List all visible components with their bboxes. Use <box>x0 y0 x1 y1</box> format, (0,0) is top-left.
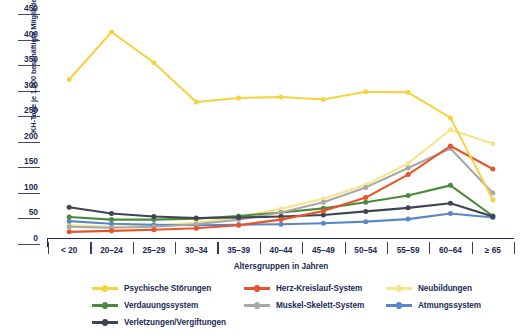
y-axis-tick-rule <box>18 116 40 117</box>
y-axis-tick-label: 300 <box>4 80 38 90</box>
legend-item-label: Herz-Kreislauf-System <box>276 284 362 293</box>
data-point <box>448 183 453 188</box>
y-axis-tick-label: 250 <box>4 105 38 115</box>
y-axis-tick-label: 0 <box>4 233 38 243</box>
y-axis-ticks: 050100150200250300350400450 <box>0 0 48 336</box>
data-point <box>448 144 453 149</box>
legend-item[interactable]: Muskel-Skelett-System <box>244 301 364 310</box>
data-point <box>236 215 241 220</box>
legend-item-label: Psychische Störungen <box>124 284 211 293</box>
data-point <box>67 215 72 220</box>
data-point <box>321 221 326 226</box>
data-point <box>321 200 326 205</box>
data-point <box>67 77 72 82</box>
data-point <box>67 229 72 234</box>
legend-swatch-icon <box>92 284 118 293</box>
data-point <box>406 165 411 170</box>
data-point <box>194 226 199 231</box>
data-point <box>363 209 368 214</box>
y-axis-tick-label: 150 <box>4 156 38 166</box>
chart-legend: Psychische StörungenHerz-Kreislauf-Syste… <box>92 284 512 334</box>
data-point <box>236 95 241 100</box>
legend-swatch-icon <box>386 284 412 293</box>
data-point <box>448 211 453 216</box>
y-axis-tick-label: 350 <box>4 54 38 64</box>
legend-item[interactable]: Herz-Kreislauf-System <box>244 284 362 293</box>
legend-swatch-icon <box>244 284 270 293</box>
data-point <box>151 60 156 65</box>
data-point <box>406 161 411 166</box>
plot-area <box>48 8 514 238</box>
y-axis-tick-rule <box>18 65 40 66</box>
x-axis-tick-label: ≥ 65 <box>465 246 520 255</box>
y-axis-tick-label: 400 <box>4 29 38 39</box>
y-axis-tick-label: 200 <box>4 131 38 141</box>
legend-item[interactable]: Verletzungen/Vergiftungen <box>92 318 226 327</box>
data-point <box>406 217 411 222</box>
y-axis-tick-rule <box>18 193 40 194</box>
data-point <box>363 195 368 200</box>
data-point <box>490 214 495 219</box>
data-point <box>279 94 284 99</box>
data-point <box>67 224 72 229</box>
y-axis-tick-rule <box>18 167 40 168</box>
y-axis-tick-rule <box>18 142 40 143</box>
legend-item[interactable]: Atmungssystem <box>386 301 481 310</box>
data-point <box>194 100 199 105</box>
legend-item-label: Atmungssystem <box>418 301 481 310</box>
data-point <box>151 227 156 232</box>
data-point <box>363 89 368 94</box>
data-point <box>109 217 114 222</box>
data-point <box>194 216 199 221</box>
y-axis-tick-rule <box>18 14 40 15</box>
legend-item-label: Muskel-Skelett-System <box>276 301 364 310</box>
data-point <box>406 205 411 210</box>
data-point <box>321 97 326 102</box>
x-axis-title: Altersgruppen in Jahren <box>48 262 514 271</box>
legend-swatch-icon <box>244 301 270 310</box>
chart-container: KH-Tage je 1.000 beschäftigte Mitglieder… <box>0 0 520 336</box>
data-point <box>151 214 156 219</box>
y-axis-tick-rule <box>18 91 40 92</box>
data-point <box>363 219 368 224</box>
data-point <box>406 90 411 95</box>
data-point <box>363 200 368 205</box>
series-canvas <box>48 8 514 238</box>
data-point <box>406 193 411 198</box>
data-point <box>406 172 411 177</box>
data-point <box>279 217 284 222</box>
y-axis-tick-rule <box>18 218 40 219</box>
data-point <box>448 127 453 132</box>
y-axis-tick-label: 50 <box>4 207 38 217</box>
data-point <box>236 223 241 228</box>
data-point <box>279 222 284 227</box>
data-point <box>490 141 495 146</box>
y-axis-tick-label: 450 <box>4 3 38 13</box>
data-point <box>109 211 114 216</box>
legend-item-label: Neubildungen <box>418 284 472 293</box>
series-psychische-st-rungen <box>67 30 496 203</box>
series-line <box>69 32 493 200</box>
legend-item[interactable]: Verdauungssystem <box>92 301 198 310</box>
data-point <box>109 30 114 35</box>
legend-swatch-icon <box>386 301 412 310</box>
data-point <box>490 167 495 172</box>
legend-item-label: Verdauungssystem <box>124 301 198 310</box>
y-axis-tick-rule <box>18 244 40 245</box>
data-point <box>490 197 495 202</box>
data-point <box>448 201 453 206</box>
legend-item-label: Verletzungen/Vergiftungen <box>124 318 226 327</box>
legend-item[interactable]: Psychische Störungen <box>92 284 211 293</box>
data-point <box>363 185 368 190</box>
legend-swatch-icon <box>92 318 118 327</box>
legend-item[interactable]: Neubildungen <box>386 284 472 293</box>
legend-swatch-icon <box>92 301 118 310</box>
data-point <box>448 115 453 120</box>
data-point <box>321 208 326 213</box>
y-axis-tick-rule <box>18 40 40 41</box>
data-point <box>109 228 114 233</box>
data-point <box>67 205 72 210</box>
y-axis-tick-label: 100 <box>4 182 38 192</box>
